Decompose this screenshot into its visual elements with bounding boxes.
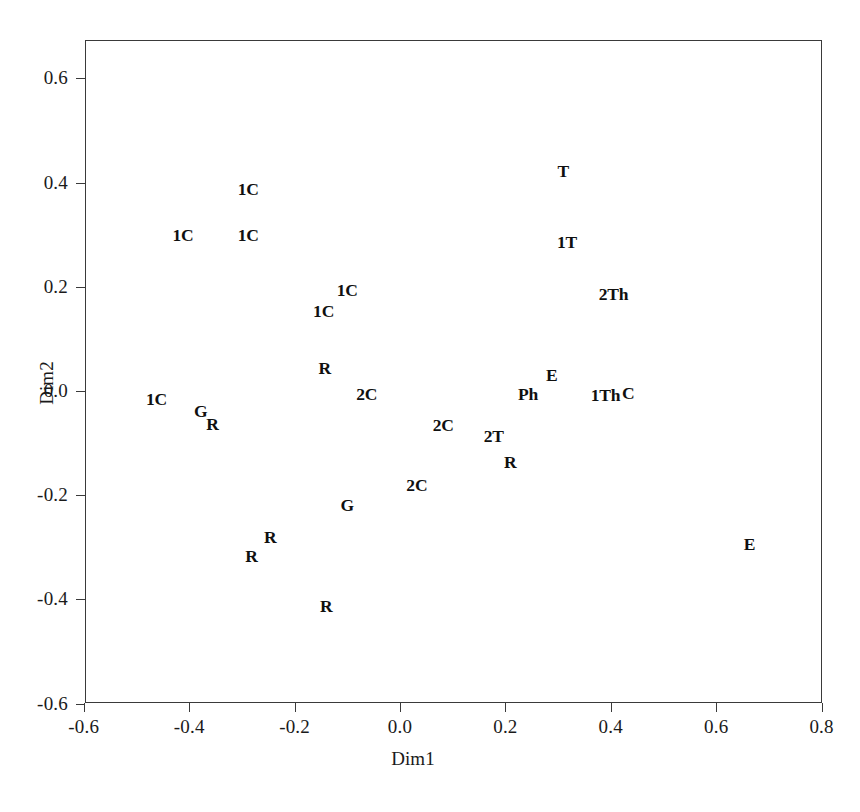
y-axis-tick-mark bbox=[76, 287, 85, 288]
y-axis-tick-label: 0.4 bbox=[4, 172, 68, 194]
x-axis-tick-label: 0.0 bbox=[360, 716, 440, 738]
x-axis-tick-label: 0.4 bbox=[571, 716, 651, 738]
y-axis-tick-mark bbox=[76, 599, 85, 600]
x-axis-tick-mark bbox=[822, 703, 823, 712]
y-axis-tick-label: 0.6 bbox=[4, 67, 68, 89]
x-axis-tick-mark bbox=[84, 703, 85, 712]
y-axis-label: Dim2 bbox=[36, 323, 58, 443]
scatter-plot-figure: 1C1C1C1C1CR2C1CGR2C2TR2CGRRRT1T2ThEPh1Th… bbox=[0, 0, 860, 812]
x-axis-tick-mark bbox=[611, 703, 612, 712]
x-axis-tick-label: 0.6 bbox=[676, 716, 756, 738]
x-axis-tick-mark bbox=[716, 703, 717, 712]
y-axis-tick-label: 0.2 bbox=[4, 276, 68, 298]
x-axis-tick-label: 0.2 bbox=[465, 716, 545, 738]
y-axis-tick-mark bbox=[76, 495, 85, 496]
x-axis-label: Dim1 bbox=[353, 748, 473, 770]
x-axis-tick-mark bbox=[400, 703, 401, 712]
x-axis-tick-label: 0.8 bbox=[782, 716, 860, 738]
plot-frame bbox=[85, 40, 822, 703]
y-axis-tick-label: -0.4 bbox=[4, 588, 68, 610]
x-axis-tick-label: -0.6 bbox=[44, 716, 124, 738]
x-axis-tick-mark bbox=[189, 703, 190, 712]
x-axis-tick-label: -0.4 bbox=[149, 716, 229, 738]
y-axis-tick-label: -0.2 bbox=[4, 484, 68, 506]
y-axis-tick-mark bbox=[76, 78, 85, 79]
y-axis-tick-mark bbox=[76, 183, 85, 184]
x-axis-tick-label: -0.2 bbox=[255, 716, 335, 738]
x-axis-tick-mark bbox=[505, 703, 506, 712]
y-axis-tick-mark bbox=[76, 391, 85, 392]
x-axis-tick-mark bbox=[295, 703, 296, 712]
y-axis-tick-label: -0.6 bbox=[4, 693, 68, 715]
